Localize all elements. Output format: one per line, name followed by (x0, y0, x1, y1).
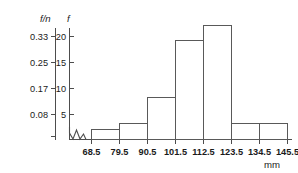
histogram-bar (260, 124, 288, 140)
frequency-tick-label: 10 (56, 84, 66, 94)
relative-frequency-axis-title: f/n (40, 13, 51, 24)
x-tick-label: 79.5 (111, 147, 129, 157)
histogram-bar (148, 98, 176, 140)
x-tick-group (92, 140, 288, 145)
histogram-bar (204, 25, 232, 139)
relative-frequency-tick-label: 0.33 (30, 32, 48, 42)
histogram-chart: f/n f mm 0.33 0.25 0.17 0.08 20 15 10 5 (0, 0, 298, 173)
chart-canvas: f/n f mm 0.33 0.25 0.17 0.08 20 15 10 5 (0, 0, 298, 173)
axis-break-icon (70, 127, 87, 140)
x-tick-label: 145.5 (276, 147, 298, 157)
histogram-bar (176, 41, 204, 140)
relative-frequency-tick-label: 0.17 (30, 84, 48, 94)
frequency-tick-label: 5 (61, 110, 66, 120)
x-tick-label: 101.5 (164, 147, 187, 157)
histogram-bar (232, 124, 260, 140)
histogram-bar (92, 129, 120, 139)
x-tick-label: 112.5 (192, 147, 214, 157)
relative-frequency-tick-label: 0.08 (30, 110, 48, 120)
frequency-tick-labels: 20 15 10 5 (56, 32, 66, 120)
histogram-bar (120, 124, 148, 140)
x-tick-label: 123.5 (220, 147, 243, 157)
x-tick-label: 90.5 (139, 147, 157, 157)
frequency-tick-label: 20 (56, 32, 66, 42)
frequency-axis-title: f (67, 13, 71, 24)
frequency-tick-label: 15 (56, 58, 66, 68)
x-tick-labels: 68.5 79.5 90.5 101.5 112.5 123.5 134.5 1… (83, 147, 298, 157)
x-axis-unit-label: mm (264, 159, 280, 170)
relative-frequency-tick-labels: 0.33 0.25 0.17 0.08 (30, 32, 48, 120)
relative-frequency-tick-label: 0.25 (30, 58, 48, 68)
x-tick-label: 68.5 (83, 147, 101, 157)
frequency-tick-group (70, 37, 75, 115)
x-tick-label: 134.5 (248, 147, 271, 157)
histogram-bars (92, 25, 288, 139)
